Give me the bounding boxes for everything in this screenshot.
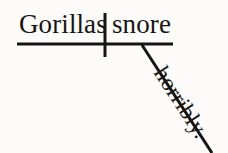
sentence-diagram: Gorillas snore horribly. [0, 0, 228, 153]
subject-word: Gorillas [19, 11, 107, 38]
predicate-word: snore [112, 11, 171, 38]
